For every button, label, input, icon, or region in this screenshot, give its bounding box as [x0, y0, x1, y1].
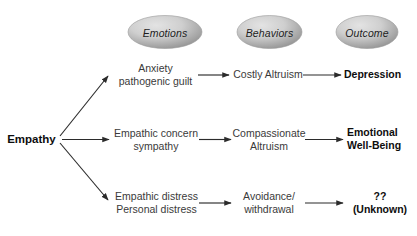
node-row2-emotion-line1: Empathic concern: [113, 127, 199, 140]
node-row2-emotion-line2: sympathy: [113, 140, 199, 153]
node-row3-emotion-line1: Empathic distress: [113, 190, 200, 203]
outcome-pill-shape: [336, 16, 398, 49]
node-empathy-root-label: Empathy: [4, 133, 59, 146]
node-row1-emotion-line1: Anxiety: [113, 62, 198, 75]
node-row2-behavior: Compassionate Altruism: [232, 127, 306, 152]
node-row1-behavior: Costly Altruism: [232, 68, 304, 81]
node-row3-behavior: Avoidance/ withdrawal: [234, 190, 304, 215]
node-row3-outcome: ?? (Unknown): [346, 190, 414, 215]
behaviors-pill-shape: [237, 16, 302, 49]
arrow-empathy-to-row3: [60, 143, 108, 200]
node-row1-emotion-line2: pathogenic guilt: [113, 75, 198, 88]
emotions-pill-shape: [128, 16, 202, 49]
node-row1-outcome-line1: Depression: [344, 68, 412, 81]
node-row3-emotion-line2: Personal distress: [113, 203, 200, 216]
arrow-empathy-to-row1: [60, 76, 108, 136]
node-row2-outcome-line1: Emotional: [347, 126, 417, 139]
node-row3-outcome-line1: ??: [346, 190, 414, 203]
node-row2-emotion: Empathic concern sympathy: [113, 127, 199, 152]
node-row2-behavior-line1: Compassionate: [232, 127, 306, 140]
node-row1-emotion: Anxiety pathogenic guilt: [113, 62, 198, 87]
node-row2-outcome-line2: Well-Being: [347, 139, 417, 152]
node-row3-behavior-line1: Avoidance/: [234, 190, 304, 203]
node-row3-behavior-line2: withdrawal: [234, 203, 304, 216]
node-row1-outcome: Depression: [344, 68, 412, 81]
node-row2-outcome: Emotional Well-Being: [347, 126, 417, 151]
node-row3-outcome-line2: (Unknown): [346, 203, 414, 216]
empathy-flow-diagram: Emotions Behaviors Outcome Empathy Anxie…: [0, 0, 417, 236]
node-row2-behavior-line2: Altruism: [232, 140, 306, 153]
node-row3-emotion: Empathic distress Personal distress: [113, 190, 200, 215]
node-empathy-root: Empathy: [4, 133, 59, 146]
node-row1-behavior-line1: Costly Altruism: [232, 68, 304, 81]
